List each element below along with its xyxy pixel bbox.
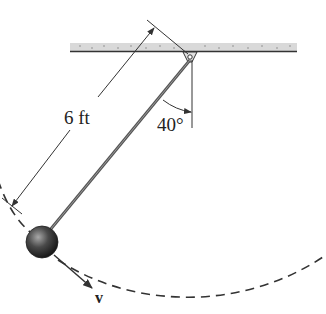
velocity-label: v bbox=[95, 290, 103, 306]
dimension-line-upper bbox=[98, 28, 154, 97]
velocity-arrow bbox=[54, 255, 92, 288]
length-label: 6 ft bbox=[64, 108, 90, 127]
pendulum-diagram: 6 ft 40° v bbox=[0, 0, 326, 314]
dimension-line-lower bbox=[12, 130, 70, 206]
angle-arc bbox=[163, 100, 191, 112]
pendulum-bob bbox=[26, 226, 58, 258]
angle-label: 40° bbox=[157, 115, 184, 134]
diagram-graphics bbox=[0, 0, 326, 314]
